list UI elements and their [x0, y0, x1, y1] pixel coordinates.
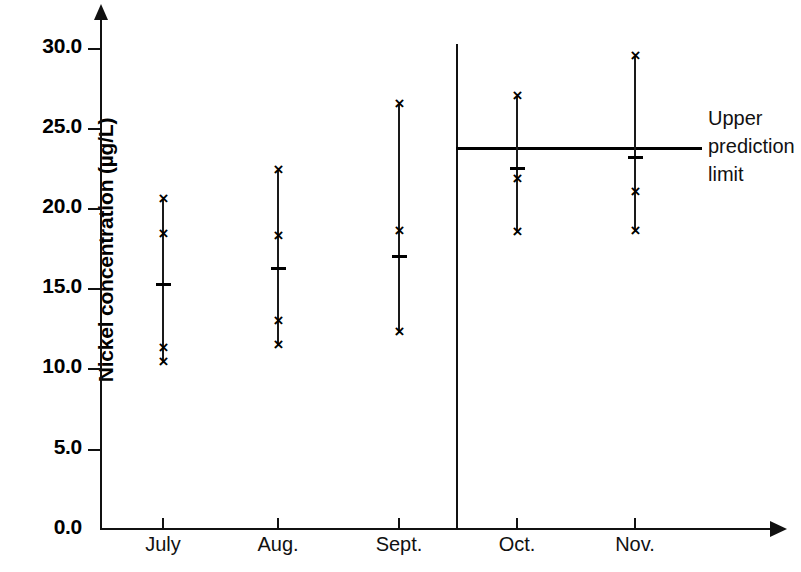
- mean-marker: [271, 267, 286, 270]
- y-axis-title: Nickel concentration (µg/L): [94, 40, 118, 460]
- data-point-marker: ×: [510, 171, 525, 186]
- x-tick-oct: [516, 518, 518, 530]
- data-point-marker: ×: [628, 48, 643, 63]
- y-axis-arrow-icon: [94, 4, 108, 20]
- upl-label-line-3: limit: [708, 160, 795, 188]
- x-tick-label-oct: Oct.: [457, 533, 577, 556]
- range-line: [634, 56, 636, 231]
- mean-marker: [510, 167, 525, 170]
- x-tick-label-sept: Sept.: [339, 533, 459, 556]
- x-tick-nov: [634, 518, 636, 530]
- data-point-marker: ×: [628, 223, 643, 238]
- y-tick-20: [88, 208, 101, 210]
- mean-marker: [156, 283, 171, 286]
- y-tick-25: [88, 128, 101, 130]
- x-tick-label-aug: Aug.: [218, 533, 338, 556]
- data-point-marker: ×: [510, 88, 525, 103]
- x-tick-sept: [398, 518, 400, 530]
- x-tick-label-nov: Nov.: [575, 533, 695, 556]
- y-tick-15: [88, 288, 101, 290]
- data-point-marker: ×: [392, 96, 407, 111]
- range-line: [398, 104, 400, 332]
- data-point-marker: ×: [510, 224, 525, 239]
- x-tick-july: [162, 518, 164, 530]
- data-point-marker: ×: [156, 226, 171, 241]
- data-point-marker: ×: [156, 354, 171, 369]
- data-point-marker: ×: [628, 184, 643, 199]
- range-line: [516, 96, 518, 232]
- y-tick-10: [88, 368, 101, 370]
- y-tick-30: [88, 48, 101, 50]
- x-tick-aug: [277, 518, 279, 530]
- mean-marker: [392, 255, 407, 258]
- data-point-marker: ×: [156, 191, 171, 206]
- x-axis-line: [100, 528, 773, 530]
- data-point-marker: ×: [271, 313, 286, 328]
- y-tick-label-25: 25.0: [2, 114, 82, 138]
- upper-prediction-limit-line: [456, 147, 702, 150]
- data-point-marker: ×: [271, 162, 286, 177]
- y-tick-5: [88, 449, 101, 451]
- upl-label-line-2: prediction: [708, 132, 795, 160]
- y-tick-label-15: 15.0: [2, 274, 82, 298]
- data-point-marker: ×: [392, 324, 407, 339]
- data-point-marker: ×: [271, 337, 286, 352]
- period-divider-line: [456, 44, 458, 530]
- x-tick-label-july: July: [103, 533, 223, 556]
- mean-marker: [628, 156, 643, 159]
- y-tick-label-0: 0.0: [2, 515, 82, 539]
- upper-prediction-limit-label: Upper prediction limit: [708, 104, 795, 188]
- y-axis-line: [100, 18, 102, 530]
- data-point-marker: ×: [271, 228, 286, 243]
- nickel-concentration-chart: Nickel concentration (µg/L) 30.0 25.0 20…: [0, 0, 801, 572]
- y-tick-label-30: 30.0: [2, 34, 82, 58]
- y-tick-label-5: 5.0: [2, 435, 82, 459]
- y-tick-label-10: 10.0: [2, 354, 82, 378]
- x-axis-arrow-icon: [770, 521, 787, 537]
- data-point-marker: ×: [392, 223, 407, 238]
- y-tick-label-20: 20.0: [2, 194, 82, 218]
- upl-label-line-1: Upper: [708, 104, 795, 132]
